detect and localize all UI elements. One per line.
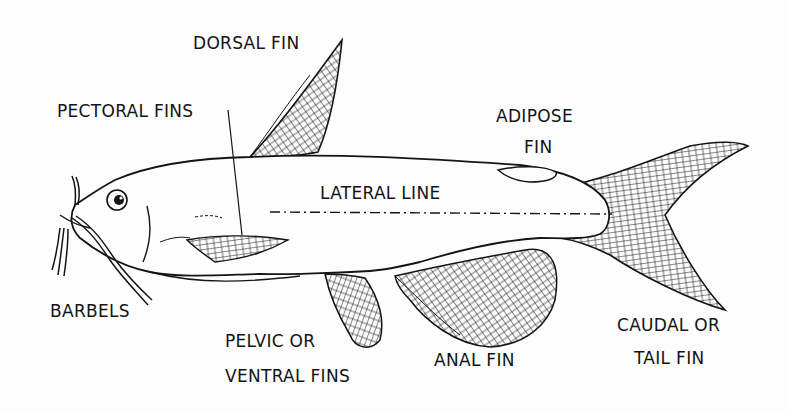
label-lateral-line: LATERAL LINE [320, 183, 440, 204]
label-pectoral-fins: PECTORAL FINS [57, 101, 193, 122]
label-anal-fin: ANAL FIN [434, 350, 515, 371]
dorsal-fin [250, 40, 342, 157]
anal-fin [395, 249, 557, 347]
label-pelvic-fins-line1: PELVIC OR [225, 331, 315, 352]
eye-icon [107, 190, 127, 210]
label-pelvic-fins-line2: VENTRAL FINS [225, 366, 350, 387]
label-adipose-fin-line2: FIN [524, 137, 552, 158]
label-caudal-fin-line1: CAUDAL OR [617, 315, 720, 336]
label-barbels: BARBELS [50, 301, 130, 322]
pelvic-fin [325, 274, 382, 347]
label-adipose-fin-line1: ADIPOSE [496, 106, 573, 127]
label-dorsal-fin: DORSAL FIN [193, 33, 299, 54]
catfish-anatomy-diagram: DORSAL FIN PECTORAL FINS ADIPOSE FIN LAT… [0, 0, 786, 413]
label-caudal-fin-line2: TAIL FIN [634, 348, 705, 369]
